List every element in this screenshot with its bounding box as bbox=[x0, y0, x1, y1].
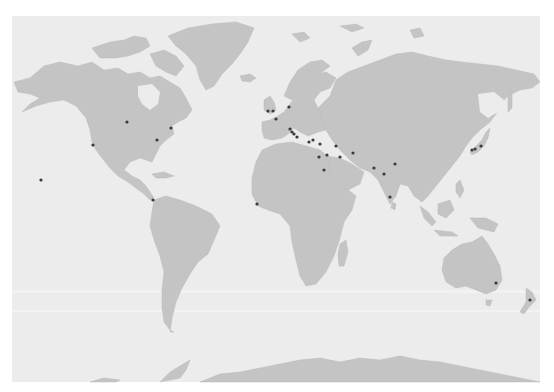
sri-lanka bbox=[391, 202, 396, 210]
map-marker[interactable] bbox=[372, 166, 375, 169]
caribbean-islands bbox=[152, 172, 174, 178]
borneo bbox=[438, 200, 454, 218]
scan-streak bbox=[12, 310, 540, 312]
map-marker[interactable] bbox=[494, 281, 497, 284]
map-marker[interactable] bbox=[169, 126, 172, 129]
arctic-archipelago bbox=[92, 36, 150, 58]
map-marker[interactable] bbox=[295, 135, 298, 138]
greenland-landmass bbox=[168, 22, 254, 90]
map-marker[interactable] bbox=[334, 144, 337, 147]
scan-streak bbox=[12, 290, 540, 293]
map-marker[interactable] bbox=[39, 178, 42, 181]
map-marker[interactable] bbox=[318, 142, 321, 145]
map-marker[interactable] bbox=[155, 138, 158, 141]
map-marker[interactable] bbox=[91, 143, 94, 146]
iceland bbox=[240, 74, 256, 82]
map-marker[interactable] bbox=[271, 109, 274, 112]
map-marker[interactable] bbox=[338, 155, 341, 158]
map-marker[interactable] bbox=[351, 151, 354, 154]
map-marker[interactable] bbox=[151, 198, 154, 201]
map-marker[interactable] bbox=[470, 148, 473, 151]
antarctic-peninsula bbox=[160, 360, 190, 382]
severnaya-zemlya bbox=[410, 28, 424, 38]
australia-landmass bbox=[442, 236, 502, 294]
map-marker[interactable] bbox=[473, 147, 476, 150]
tasmania bbox=[486, 300, 492, 306]
baffin-island bbox=[150, 50, 184, 76]
map-marker[interactable] bbox=[266, 109, 269, 112]
map-marker[interactable] bbox=[479, 144, 482, 147]
map-marker[interactable] bbox=[325, 153, 328, 156]
map-marker[interactable] bbox=[311, 138, 314, 141]
franz-josef-land bbox=[340, 24, 364, 32]
map-marker[interactable] bbox=[287, 105, 290, 108]
map-marker[interactable] bbox=[288, 127, 291, 130]
map-marker[interactable] bbox=[393, 162, 396, 165]
sumatra bbox=[420, 206, 436, 226]
map-marker[interactable] bbox=[292, 132, 295, 135]
new-guinea bbox=[470, 218, 498, 232]
novaya-zemlya bbox=[352, 40, 372, 56]
world-map-canvas bbox=[0, 0, 554, 392]
map-marker[interactable] bbox=[388, 195, 391, 198]
map-marker[interactable] bbox=[307, 140, 310, 143]
map-marker[interactable] bbox=[382, 172, 385, 175]
svalbard bbox=[292, 32, 310, 42]
map-marker[interactable] bbox=[317, 155, 320, 158]
antarctica-landmass bbox=[200, 356, 540, 382]
java bbox=[434, 230, 458, 236]
sakhalin bbox=[508, 90, 512, 112]
antarctic-fragment bbox=[90, 378, 120, 382]
map-marker[interactable] bbox=[274, 117, 277, 120]
map-marker[interactable] bbox=[255, 202, 258, 205]
map-marker[interactable] bbox=[125, 120, 128, 123]
map-marker[interactable] bbox=[322, 168, 325, 171]
madagascar bbox=[338, 240, 348, 266]
map-marker[interactable] bbox=[528, 298, 531, 301]
philippines bbox=[456, 180, 464, 198]
